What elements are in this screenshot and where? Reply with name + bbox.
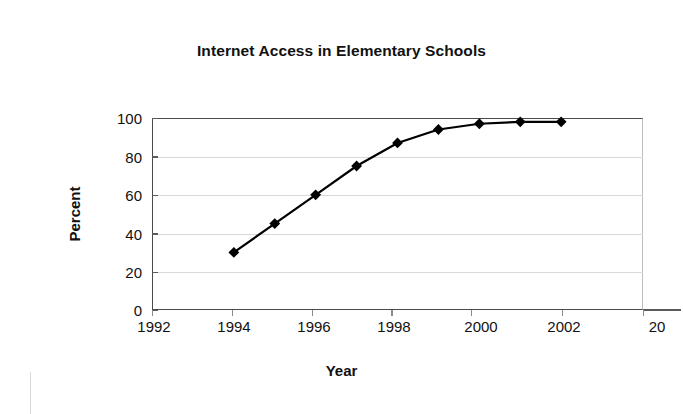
x-axis-extension xyxy=(643,309,681,311)
xtick-label-2004-clipped: 20 xyxy=(649,318,666,335)
xtick-mark-1992 xyxy=(152,310,153,316)
xtick-mark-1994 xyxy=(232,310,233,316)
gridline-60 xyxy=(152,195,643,196)
ytick-mark-100 xyxy=(152,118,158,120)
gridline-20 xyxy=(152,272,643,273)
xtick-mark-1996 xyxy=(312,310,313,316)
chart-page: Internet Access in Elementary Schools 10… xyxy=(0,0,683,414)
xtick-label-2000: 2000 xyxy=(464,318,497,335)
xtick-label-2002: 2002 xyxy=(547,318,580,335)
ytick-label-80-text: 80 xyxy=(125,148,142,165)
ytick-label-40-text: 40 xyxy=(125,225,142,242)
scan-artifact-top xyxy=(0,0,683,1)
ytick-label-0-text: 0 xyxy=(134,302,142,319)
xtick-mark-2000 xyxy=(471,310,472,316)
plot-area xyxy=(152,118,643,310)
ytick-mark-80 xyxy=(152,156,158,158)
xtick-label-1996: 1996 xyxy=(297,318,330,335)
ytick-label-20-text: 20 xyxy=(125,264,142,281)
xtick-mark-2004 xyxy=(643,310,644,316)
xtick-label-1992: 1992 xyxy=(137,318,170,335)
ytick-mark-40 xyxy=(152,233,158,235)
gridline-80 xyxy=(152,157,643,158)
ytick-label-60-text: 60 xyxy=(125,187,142,204)
ytick-label-100-text: 100 xyxy=(117,110,142,127)
ytick-mark-60 xyxy=(152,195,158,197)
gridline-40 xyxy=(152,234,643,235)
xtick-mark-1998 xyxy=(391,310,392,316)
chart-title: Internet Access in Elementary Schools xyxy=(0,42,683,60)
y-axis-title: Percent xyxy=(66,186,83,241)
xtick-label-1994: 1994 xyxy=(217,318,250,335)
xtick-mark-2002 xyxy=(562,310,563,316)
xtick-label-1998: 1998 xyxy=(377,318,410,335)
x-axis-title: Year xyxy=(0,362,683,379)
ytick-mark-20 xyxy=(152,272,158,274)
